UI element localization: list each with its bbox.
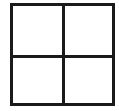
grid-cell-bottom-left: [13, 58, 62, 103]
grid-cell-bottom-right: [65, 58, 112, 103]
horizontal-divider: [13, 55, 112, 58]
two-by-two-grid: [10, 3, 115, 106]
grid-cell-top-right: [65, 6, 112, 55]
grid-cell-top-left: [13, 6, 62, 55]
